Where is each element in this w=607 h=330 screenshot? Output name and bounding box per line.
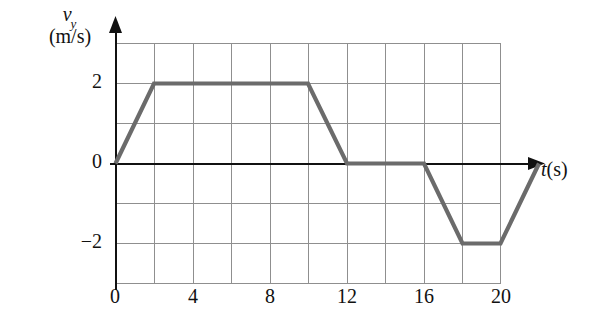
x-tick-label-4: 4 [171,285,215,308]
x-axis [110,157,545,170]
x-tick-label-16: 16 [402,285,446,308]
x-tick-label-20: 20 [479,285,523,308]
y-axis-arrowhead [109,16,122,33]
y-tick-label-2: 2 [62,70,102,93]
y-tick-label-neg2: −2 [62,230,102,253]
x-tick-label-0: 0 [93,285,137,308]
x-tick-label-12: 12 [325,285,369,308]
y-tick-label-0: 0 [62,150,102,173]
velocity-time-graph-figure: vy (m/s) t(s) [0,0,607,330]
x-tick-label-8: 8 [248,285,292,308]
